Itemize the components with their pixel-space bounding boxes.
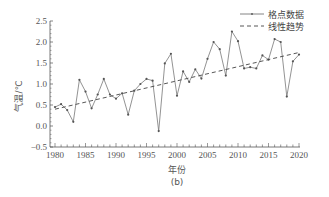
temperature-line-chart: −0.50.00.51.01.52.02.5198019851990199520… (0, 0, 329, 197)
legend-marker-icon (251, 13, 253, 15)
y-tick-label: 2.5 (36, 16, 48, 26)
plot-area (54, 30, 300, 132)
data-point-marker (78, 79, 80, 81)
data-point-marker (60, 103, 62, 105)
data-point-marker (249, 66, 251, 68)
y-tick-label: 1.0 (36, 79, 48, 89)
data-point-marker (200, 77, 202, 79)
axes: −0.50.00.51.01.52.02.5198019851990199520… (31, 16, 309, 160)
data-point-marker (176, 95, 178, 97)
x-tick-label: 1980 (46, 150, 65, 160)
data-point-marker (127, 114, 129, 116)
data-point-marker (219, 48, 221, 50)
data-point-marker (286, 96, 288, 98)
data-point-marker (109, 93, 111, 95)
data-point-marker (298, 54, 300, 56)
data-point-marker (194, 68, 196, 70)
data-point-marker (66, 109, 68, 111)
y-tick-label: −0.5 (31, 142, 48, 152)
data-point-marker (280, 41, 282, 43)
data-point-marker (206, 58, 208, 60)
x-tick-label: 2000 (168, 150, 187, 160)
data-point-marker (255, 67, 257, 69)
data-point-marker (164, 62, 166, 64)
data-point-marker (243, 67, 245, 69)
data-point-marker (91, 107, 93, 109)
data-point-marker (121, 92, 123, 94)
data-point-marker (97, 93, 99, 95)
data-point-marker (182, 70, 184, 72)
data-point-marker (145, 78, 147, 80)
linear-trend-line (55, 53, 299, 110)
data-point-marker (158, 130, 160, 132)
x-tick-label: 1985 (77, 150, 96, 160)
data-point-marker (225, 75, 227, 77)
data-point-marker (72, 121, 74, 123)
data-point-marker (84, 90, 86, 92)
data-point-marker (152, 80, 154, 82)
data-point-marker (274, 38, 276, 40)
data-point-marker (261, 54, 263, 56)
data-point-marker (103, 78, 105, 80)
x-tick-label: 2010 (229, 150, 248, 160)
y-tick-label: 1.5 (36, 58, 48, 68)
x-tick-label: 2020 (290, 150, 309, 160)
grid-data-line (55, 32, 299, 132)
data-point-marker (231, 30, 233, 32)
x-tick-label: 2005 (199, 150, 218, 160)
legend-label-grid-data: 格点数据 (268, 9, 304, 20)
x-axis-title: 年份 (168, 164, 186, 175)
legend-label-linear-trend: 线性趋势 (268, 21, 304, 32)
data-point-marker (237, 40, 239, 42)
data-point-marker (54, 106, 56, 108)
x-tick-label: 1990 (107, 150, 126, 160)
data-point-marker (213, 41, 215, 43)
x-tick-label: 1995 (138, 150, 157, 160)
y-tick-label: 2.0 (36, 37, 48, 47)
data-point-marker (292, 60, 294, 62)
x-tick-label: 2015 (260, 150, 279, 160)
data-point-marker (139, 83, 141, 85)
y-tick-label: 0.5 (36, 100, 48, 110)
data-point-marker (170, 53, 172, 55)
y-axis-title: 气温/℃ (13, 80, 24, 111)
y-tick-label: 0.0 (36, 121, 48, 131)
data-point-marker (115, 98, 117, 100)
figure-caption: (b) (171, 177, 184, 187)
data-point-marker (188, 81, 190, 83)
legend: 格点数据 线性趋势 (240, 9, 304, 32)
